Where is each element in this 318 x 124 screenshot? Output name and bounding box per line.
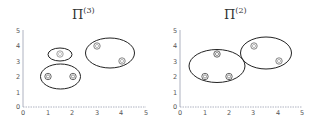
x-tick-label: 3 <box>95 109 99 117</box>
x-tick-label: 0 <box>178 109 182 117</box>
y-tick-label: 3 <box>173 58 177 66</box>
y-tick-label: 0 <box>16 103 20 111</box>
x-tick-label: 0 <box>21 109 25 117</box>
y-tick-label: 1 <box>16 89 20 97</box>
x-tick-label: 2 <box>70 109 74 117</box>
y-tick-label: 5 <box>173 27 177 35</box>
data-point-marker <box>226 73 232 79</box>
y-tick-label: 2 <box>173 73 177 81</box>
cluster-ellipse <box>241 37 292 69</box>
data-point-marker <box>119 58 125 64</box>
y-tick-label: 3 <box>16 58 20 66</box>
y-tick-label: 4 <box>173 42 177 50</box>
data-point-marker <box>70 73 76 79</box>
data-point-marker <box>45 73 51 79</box>
x-tick-label: 4 <box>119 109 123 117</box>
cluster-ellipse <box>86 38 135 68</box>
scatter-plot-pi2: 5 4 3 2 1 0 0 1 2 3 4 5 <box>159 0 318 124</box>
y-tick-label: 0 <box>173 103 177 111</box>
data-point-marker <box>94 43 100 49</box>
x-tick-label: 1 <box>46 109 50 117</box>
x-tick-label: 5 <box>144 109 148 117</box>
y-tick-label: 4 <box>16 42 20 50</box>
data-point-marker <box>57 51 63 57</box>
data-point-marker <box>202 73 208 79</box>
x-tick-label: 2 <box>227 109 231 117</box>
x-tick-label: 1 <box>203 109 207 117</box>
x-tick-label: 4 <box>276 109 280 117</box>
x-tick-label: 5 <box>300 109 304 117</box>
data-point-marker <box>214 51 220 57</box>
data-point-marker <box>276 58 282 64</box>
y-tick-label: 2 <box>16 73 20 81</box>
x-tick-label: 3 <box>251 109 255 117</box>
chart-panel-pi2: Π(2) 5 4 3 2 1 0 0 1 2 3 4 5 <box>159 0 318 124</box>
scatter-plot-pi3: 5 4 3 2 1 0 0 1 2 3 4 5 <box>0 0 159 124</box>
y-tick-label: 1 <box>173 89 177 97</box>
data-point-marker <box>251 43 257 49</box>
y-tick-label: 5 <box>16 27 20 35</box>
chart-panel-pi3: Π(3) 5 4 3 2 1 0 0 1 2 3 4 5 <box>0 0 159 124</box>
